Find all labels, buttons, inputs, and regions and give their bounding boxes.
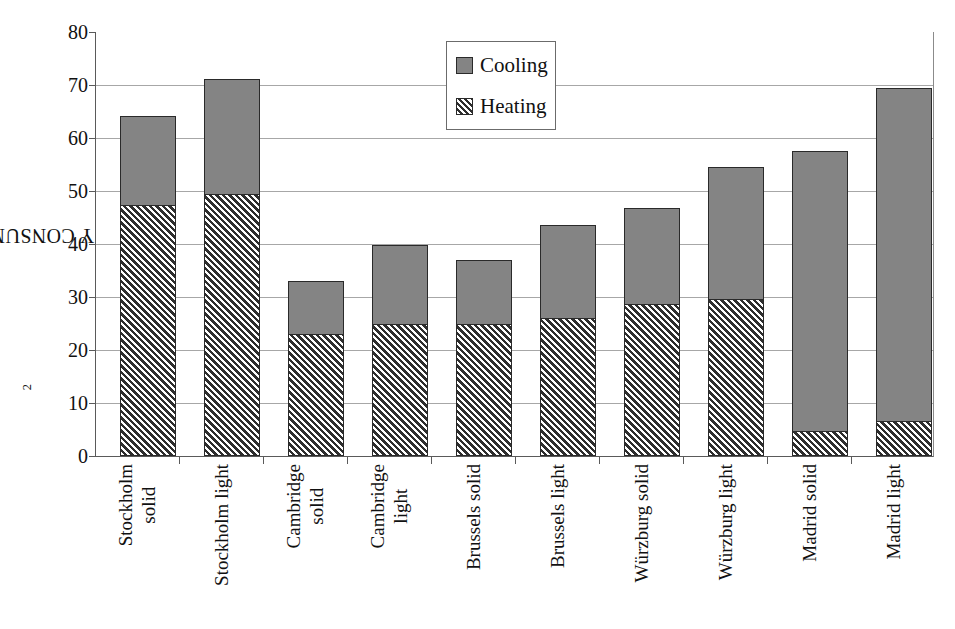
- x-tick-mark-5: [515, 456, 516, 464]
- chart-page: ENERGY CONSUMPTION, kWh/m2 80 70 60 50 4…: [0, 0, 955, 629]
- legend-swatch-cooling-icon: [456, 57, 473, 74]
- x-label-brussels-light: Brussels light: [515, 464, 599, 629]
- x-tick-mark-2: [263, 456, 264, 464]
- x-label-line1: Stockholm light: [211, 464, 232, 586]
- legend-item-heating: Heating: [456, 96, 546, 117]
- y-tick-label-10: 10: [38, 393, 88, 413]
- x-label-cambridge-solid: Cambridge solid: [263, 464, 347, 629]
- y-tick-label-0: 0: [38, 446, 88, 466]
- bar-segment-heating[interactable]: [624, 304, 680, 456]
- bar-segment-heating[interactable]: [372, 324, 428, 456]
- bar-segment-heating[interactable]: [204, 194, 260, 456]
- x-label-madrid-solid: Madrid solid: [767, 464, 851, 629]
- y-axis-title: ENERGY CONSUMPTION, kWh/m2: [0, 0, 40, 470]
- bar-segment-cooling[interactable]: [708, 167, 764, 300]
- x-label-cambridge-light: Cambridge light: [347, 464, 431, 629]
- x-label-line2: solid: [305, 464, 328, 548]
- y-tick-label-40: 40: [38, 234, 88, 254]
- x-axis-category-labels: Stockholm solid Stockholm light Cambridg…: [95, 464, 932, 629]
- x-label-line1: Cambridge: [367, 464, 388, 548]
- x-tick-mark-3: [347, 456, 348, 464]
- y-tick-label-30: 30: [38, 287, 88, 307]
- legend: Cooling Heating: [446, 41, 556, 130]
- bar-segment-heating[interactable]: [120, 205, 176, 456]
- x-label-wurzburg-light: Würzburg light: [683, 464, 767, 629]
- bar-wurzburg-solid[interactable]: [624, 208, 680, 456]
- x-label-wurzburg-solid: Würzburg solid: [599, 464, 683, 629]
- bar-segment-cooling[interactable]: [204, 79, 260, 195]
- y-tick-label-70: 70: [38, 75, 88, 95]
- x-label-stockholm-light: Stockholm light: [179, 464, 263, 629]
- bar-brussels-light[interactable]: [540, 225, 596, 456]
- legend-label-heating: Heating: [480, 96, 546, 117]
- legend-label-cooling: Cooling: [480, 55, 548, 76]
- bar-madrid-solid[interactable]: [792, 151, 848, 456]
- x-tick-mark-6: [599, 456, 600, 464]
- x-label-line1: Madrid solid: [799, 464, 820, 562]
- x-label-stockholm-solid: Stockholm solid: [95, 464, 179, 629]
- y-axis-title-text: ENERGY CONSUMPTION, kWh/m2: [0, 80, 43, 390]
- y-tick-label-80: 80: [38, 22, 88, 42]
- bar-stockholm-solid[interactable]: [120, 116, 176, 456]
- bar-segment-cooling[interactable]: [792, 151, 848, 432]
- bar-segment-cooling[interactable]: [876, 88, 932, 422]
- x-label-line1: Brussels solid: [463, 464, 484, 570]
- bar-segment-heating[interactable]: [792, 431, 848, 456]
- x-tick-mark-8: [767, 456, 768, 464]
- x-label-line1: Brussels light: [547, 464, 568, 568]
- x-tick-mark-7: [683, 456, 684, 464]
- y-axis-tick-labels: 80 70 60 50 40 30 20 10 0: [38, 0, 88, 629]
- bar-stockholm-light[interactable]: [204, 79, 260, 456]
- bar-segment-heating[interactable]: [876, 421, 932, 456]
- x-tick-mark-1: [179, 456, 180, 464]
- bar-segment-heating[interactable]: [456, 324, 512, 456]
- bar-segment-cooling[interactable]: [624, 208, 680, 305]
- y-tick-label-60: 60: [38, 128, 88, 148]
- x-label-madrid-light: Madrid light: [851, 464, 935, 629]
- bar-brussels-solid[interactable]: [456, 260, 512, 456]
- bar-segment-heating[interactable]: [708, 299, 764, 456]
- x-label-line1: Cambridge: [283, 464, 304, 548]
- x-label-line2: solid: [137, 464, 160, 546]
- bar-segment-cooling[interactable]: [540, 225, 596, 319]
- legend-item-cooling: Cooling: [456, 55, 548, 76]
- y-axis-title-superscript: 2: [20, 383, 34, 390]
- x-label-brussels-solid: Brussels solid: [431, 464, 515, 629]
- legend-swatch-heating-icon: [456, 98, 473, 115]
- bar-cambridge-solid[interactable]: [288, 281, 344, 456]
- x-label-line1: Würzburg light: [715, 464, 736, 580]
- x-label-line1: Würzburg solid: [631, 464, 652, 582]
- bar-segment-cooling[interactable]: [120, 116, 176, 206]
- x-label-line1: Stockholm: [115, 464, 136, 546]
- bar-segment-cooling[interactable]: [372, 245, 428, 325]
- x-tick-mark-9: [851, 456, 852, 464]
- bar-cambridge-light[interactable]: [372, 245, 428, 456]
- y-tick-label-50: 50: [38, 181, 88, 201]
- y-tick-label-20: 20: [38, 340, 88, 360]
- x-label-line1: Madrid light: [883, 464, 904, 560]
- bar-segment-cooling[interactable]: [456, 260, 512, 325]
- bar-madrid-light[interactable]: [876, 88, 932, 456]
- x-tick-mark-4: [431, 456, 432, 464]
- bar-segment-heating[interactable]: [540, 318, 596, 456]
- bar-wurzburg-light[interactable]: [708, 167, 764, 456]
- x-label-line2: light: [389, 464, 412, 548]
- bar-segment-cooling[interactable]: [288, 281, 344, 335]
- bar-segment-heating[interactable]: [288, 334, 344, 456]
